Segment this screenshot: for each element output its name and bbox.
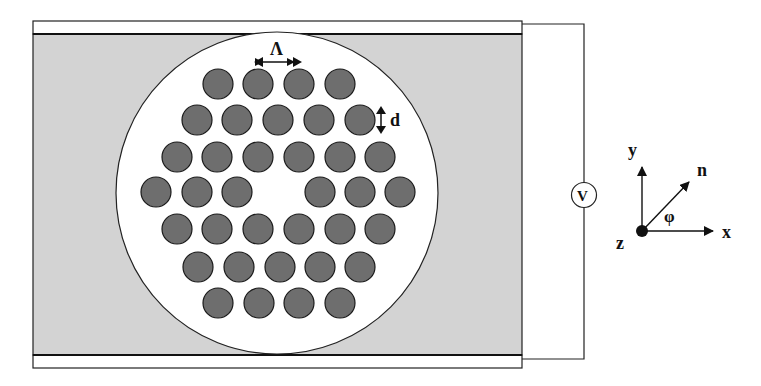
voltage-label: V [577, 188, 588, 204]
air-hole [265, 252, 295, 282]
diameter-label: d [390, 110, 400, 130]
air-hole [305, 252, 335, 282]
air-hole [182, 105, 212, 135]
air-hole [345, 252, 375, 282]
air-hole [365, 142, 395, 172]
air-hole [284, 69, 314, 99]
air-hole [244, 288, 274, 318]
air-hole [345, 177, 375, 207]
air-hole [305, 177, 335, 207]
air-hole [222, 105, 252, 135]
pcf-diagram: Λ d V y x z n φ [0, 0, 761, 386]
circuit-wire [522, 24, 584, 183]
air-hole [243, 142, 273, 172]
y-axis-label: y [628, 140, 637, 160]
z-axis-dot-icon [636, 225, 648, 237]
angle-label: φ [664, 207, 675, 226]
air-hole [162, 142, 192, 172]
air-hole [203, 69, 233, 99]
air-hole [385, 177, 415, 207]
air-hole [284, 214, 314, 244]
air-hole [243, 214, 273, 244]
air-hole [202, 142, 232, 172]
air-hole [222, 177, 252, 207]
pitch-label: Λ [270, 39, 283, 59]
air-hole [263, 105, 293, 135]
air-hole [325, 214, 355, 244]
bottom-electrode [33, 355, 522, 368]
air-hole [183, 252, 213, 282]
x-axis-label: x [722, 222, 731, 242]
air-hole [203, 288, 233, 318]
air-hole [365, 214, 395, 244]
director-label: n [697, 160, 707, 180]
air-hole [325, 69, 355, 99]
air-hole [141, 177, 171, 207]
air-hole [202, 214, 232, 244]
air-hole [325, 288, 355, 318]
air-hole [162, 214, 192, 244]
z-axis-label: z [616, 233, 624, 253]
air-hole [243, 69, 273, 99]
circuit-wire [522, 207, 584, 359]
air-hole [284, 288, 314, 318]
air-hole [182, 177, 212, 207]
air-hole [284, 142, 314, 172]
air-hole [325, 142, 355, 172]
air-hole [224, 252, 254, 282]
air-hole [304, 105, 334, 135]
air-hole [345, 105, 375, 135]
